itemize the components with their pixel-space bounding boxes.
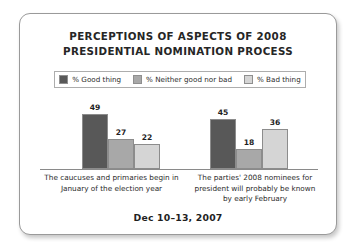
chart-title: PERCEPTIONS OF ASPECTS OF 2008 PRESIDENT… — [20, 29, 336, 58]
bar-caucuses-good-thing: 49 — [82, 102, 108, 169]
legend-swatch-icon-neither — [133, 75, 142, 84]
bar-rect — [108, 139, 134, 169]
category-label-line: The parties' 2008 nominees for — [180, 173, 330, 184]
legend-label-neither: % Neither good nor bad — [146, 75, 232, 84]
bar-rect — [134, 144, 160, 169]
bar-caucuses-neither: 27 — [108, 102, 134, 169]
legend-item-bad-thing: % Bad thing — [244, 75, 301, 84]
bar-group-caucuses: 49 27 22 — [82, 102, 160, 169]
bar-nominees-neither: 18 — [236, 102, 262, 169]
legend-item-good-thing: % Good thing — [59, 75, 121, 84]
bar-value-label: 36 — [270, 118, 281, 127]
chart-title-line-2: PRESIDENTIAL NOMINATION PROCESS — [20, 44, 336, 59]
category-label-caucuses: The caucuses and primaries begin in Janu… — [34, 173, 189, 194]
legend-swatch-icon-good-thing — [59, 75, 68, 84]
bar-value-label: 27 — [116, 128, 127, 137]
bar-caucuses-bad-thing: 22 — [134, 102, 160, 169]
bar-nominees-good-thing: 45 — [210, 102, 236, 169]
bar-rect — [236, 149, 262, 169]
legend-label-bad-thing: % Bad thing — [257, 75, 301, 84]
bar-rect — [210, 119, 236, 169]
bar-value-label: 22 — [142, 133, 153, 142]
category-label-line: president will probably be known — [180, 184, 330, 195]
chart-plot-area: 49 27 22 45 18 36 — [40, 102, 318, 170]
bar-group-nominees: 45 18 36 — [210, 102, 288, 169]
category-label-line: January of the election year — [34, 184, 189, 195]
bar-value-label: 49 — [90, 103, 101, 112]
chart-baseline-axis — [40, 169, 318, 170]
legend-label-good-thing: % Good thing — [72, 75, 121, 84]
chart-title-line-1: PERCEPTIONS OF ASPECTS OF 2008 — [20, 29, 336, 44]
chart-card: PERCEPTIONS OF ASPECTS OF 2008 PRESIDENT… — [19, 13, 337, 235]
bar-nominees-bad-thing: 36 — [262, 102, 288, 169]
chart-legend: % Good thing % Neither good nor bad % Ba… — [54, 71, 306, 88]
survey-date-label: Dec 10–13, 2007 — [20, 212, 336, 223]
bar-value-label: 18 — [244, 138, 255, 147]
legend-swatch-icon-bad-thing — [244, 75, 253, 84]
category-label-line: by early February — [180, 194, 330, 205]
category-label-nominees: The parties' 2008 nominees for president… — [180, 173, 330, 205]
category-label-line: The caucuses and primaries begin in — [34, 173, 189, 184]
bar-value-label: 45 — [218, 108, 229, 117]
legend-item-neither: % Neither good nor bad — [133, 75, 232, 84]
bar-rect — [82, 114, 108, 169]
bar-rect — [262, 129, 288, 169]
